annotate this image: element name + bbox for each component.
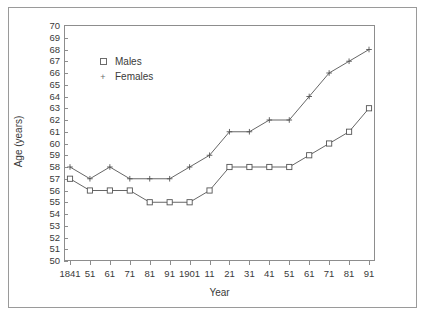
x-tick-mark bbox=[369, 261, 370, 265]
y-tick-label: 58 bbox=[34, 162, 60, 171]
x-tick-label: 41 bbox=[264, 268, 275, 279]
x-tick-mark bbox=[90, 261, 91, 265]
y-tick-mark bbox=[64, 144, 68, 145]
x-tick-mark bbox=[70, 261, 71, 265]
x-axis-title: Year bbox=[64, 287, 375, 298]
y-tick-mark bbox=[64, 120, 68, 121]
legend-label-males: Males bbox=[115, 56, 142, 67]
y-tick-mark bbox=[64, 132, 68, 133]
x-tick-label: 71 bbox=[125, 268, 136, 279]
y-tick-label: 66 bbox=[34, 68, 60, 77]
x-tick-label: 61 bbox=[304, 268, 315, 279]
x-tick-label: 91 bbox=[364, 268, 375, 279]
y-tick-label: 61 bbox=[34, 127, 60, 136]
y-tick-label: 70 bbox=[34, 21, 60, 30]
x-tick-mark bbox=[249, 261, 250, 265]
x-tick-label: 1841 bbox=[59, 268, 80, 279]
x-tick-label: 51 bbox=[85, 268, 96, 279]
x-tick-mark bbox=[309, 261, 310, 265]
y-tick-label: 51 bbox=[34, 244, 60, 253]
y-tick-mark bbox=[64, 97, 68, 98]
x-tick-mark bbox=[150, 261, 151, 265]
x-tick-label: 51 bbox=[284, 268, 295, 279]
y-axis-title: Age (years) bbox=[13, 102, 24, 182]
x-tick-mark bbox=[190, 261, 191, 265]
y-tick-mark bbox=[64, 50, 68, 51]
x-tick-mark bbox=[229, 261, 230, 265]
plus-marker-icon: + bbox=[96, 72, 110, 82]
x-tick-label: 81 bbox=[344, 268, 355, 279]
y-tick-mark bbox=[64, 85, 68, 86]
y-tick-mark bbox=[64, 38, 68, 39]
y-tick-label: 54 bbox=[34, 209, 60, 218]
y-tick-label: 57 bbox=[34, 174, 60, 183]
y-tick-mark bbox=[64, 73, 68, 74]
x-tick-mark bbox=[130, 261, 131, 265]
x-tick-mark bbox=[349, 261, 350, 265]
y-tick-mark bbox=[64, 214, 68, 215]
x-tick-mark bbox=[289, 261, 290, 265]
y-tick-label: 67 bbox=[34, 56, 60, 65]
y-tick-mark bbox=[64, 261, 68, 262]
y-tick-label: 55 bbox=[34, 197, 60, 206]
y-tick-label: 53 bbox=[34, 221, 60, 230]
legend-item-males: Males bbox=[96, 54, 153, 69]
y-tick-label: 56 bbox=[34, 186, 60, 195]
y-tick-mark bbox=[64, 61, 68, 62]
y-tick-label: 52 bbox=[34, 233, 60, 242]
x-tick-mark bbox=[170, 261, 171, 265]
x-tick-label: 91 bbox=[164, 268, 175, 279]
y-tick-label: 68 bbox=[34, 45, 60, 54]
x-tick-mark bbox=[210, 261, 211, 265]
square-marker-icon bbox=[96, 57, 110, 67]
y-tick-label: 60 bbox=[34, 139, 60, 148]
y-tick-mark bbox=[64, 155, 68, 156]
y-tick-mark bbox=[64, 249, 68, 250]
chart-page: Age (years) Year 70696867666564636261605… bbox=[0, 0, 426, 318]
y-tick-label: 69 bbox=[34, 33, 60, 42]
x-tick-label: 11 bbox=[205, 268, 215, 279]
y-tick-mark bbox=[64, 179, 68, 180]
y-tick-label: 50 bbox=[34, 256, 60, 265]
y-tick-label: 62 bbox=[34, 115, 60, 124]
x-tick-mark bbox=[329, 261, 330, 265]
legend-item-females: + Females bbox=[96, 69, 153, 84]
x-tick-mark bbox=[269, 261, 270, 265]
y-tick-label: 65 bbox=[34, 80, 60, 89]
y-tick-mark bbox=[64, 167, 68, 168]
y-tick-mark bbox=[64, 191, 68, 192]
x-tick-label: 21 bbox=[224, 268, 235, 279]
x-tick-label: 31 bbox=[244, 268, 255, 279]
y-tick-mark bbox=[64, 238, 68, 239]
x-tick-label: 81 bbox=[144, 268, 155, 279]
x-tick-label: 1901 bbox=[179, 268, 200, 279]
y-axis-tick-labels: 7069686766656463626160595857565554535251… bbox=[34, 0, 60, 318]
y-tick-label: 63 bbox=[34, 103, 60, 112]
y-tick-mark bbox=[64, 226, 68, 227]
y-tick-label: 59 bbox=[34, 150, 60, 159]
x-tick-label: 61 bbox=[105, 268, 116, 279]
y-tick-mark bbox=[64, 108, 68, 109]
x-tick-mark bbox=[110, 261, 111, 265]
legend: Males + Females bbox=[96, 54, 153, 84]
legend-label-females: Females bbox=[115, 71, 153, 82]
y-tick-mark bbox=[64, 202, 68, 203]
x-tick-label: 71 bbox=[324, 268, 335, 279]
y-tick-label: 64 bbox=[34, 92, 60, 101]
